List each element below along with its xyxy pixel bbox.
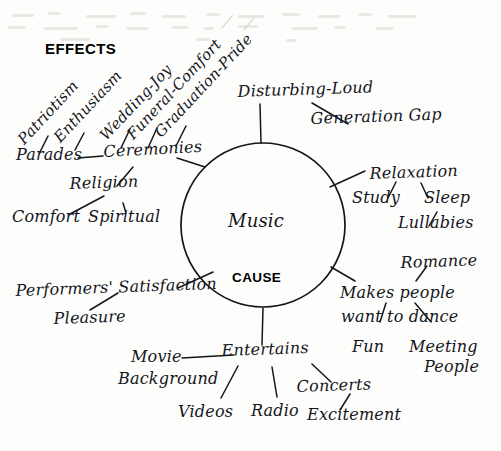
node-meeting: Meeting (409, 339, 478, 356)
node-background: Background (118, 371, 218, 388)
node-sleep: Sleep (424, 190, 470, 207)
node-comfort: Comfort (12, 209, 80, 226)
node-lullabies: Lullabies (398, 215, 474, 232)
node-study: Study (352, 190, 400, 207)
link-videos (221, 366, 238, 398)
node-makes-people: Makes people (340, 285, 455, 302)
spoke-disturbing-loud (260, 104, 261, 143)
node-excitement: Excitement (307, 407, 401, 424)
node-videos: Videos (178, 404, 233, 421)
effects-header: EFFECTS (45, 40, 116, 57)
spoke-relaxation (330, 171, 365, 187)
node-religion: Religion (69, 174, 138, 193)
node-parades: Parades (16, 147, 82, 164)
node-concerts: Concerts (296, 376, 371, 395)
node-music: Music (228, 212, 284, 231)
spoke-ceremonies (177, 158, 205, 167)
node-fun: Fun (352, 339, 384, 356)
node-movie: Movie (131, 349, 182, 366)
node-radio: Radio (251, 403, 299, 420)
node-spiritual: Spiritual (88, 209, 160, 226)
diagram-canvas: EFFECTS CAUSE Music Patriotism Enthusias… (0, 0, 501, 451)
node-people: People (424, 359, 479, 376)
spoke-makes-people-dance (331, 267, 355, 281)
node-romance: Romance (400, 252, 477, 271)
node-pleasure: Pleasure (53, 308, 126, 327)
cause-header: CAUSE (232, 270, 281, 285)
link-radio (272, 367, 277, 397)
node-relaxation: Relaxation (369, 163, 458, 183)
node-want-to-dance: want to dance (341, 309, 458, 326)
node-entertains: Entertains (221, 340, 309, 360)
